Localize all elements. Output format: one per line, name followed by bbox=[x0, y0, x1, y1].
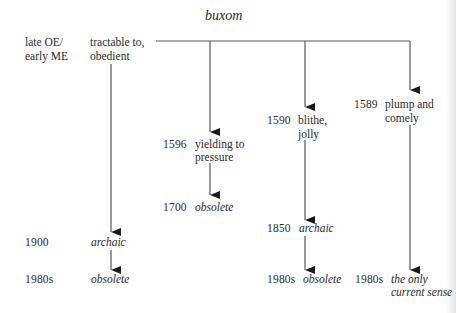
root-chain-1980s-label: obsolete bbox=[91, 273, 129, 286]
branch3-sense-line1: plump and bbox=[385, 98, 434, 111]
branch2-next-label: archaic bbox=[299, 222, 334, 235]
branch3-date: 1589 bbox=[354, 98, 378, 111]
diagram-title: buxom bbox=[205, 9, 242, 22]
branch2-sense-line1: blithe, bbox=[298, 114, 327, 127]
branch3-sense-line2: comely bbox=[385, 112, 419, 125]
root-date-line1: late OE/ bbox=[25, 36, 63, 49]
branch1-sense-line1: yielding to bbox=[195, 138, 245, 151]
branch3-final-label-line2: current sense bbox=[391, 286, 452, 299]
branch1-date: 1596 bbox=[163, 138, 187, 151]
branch1-next-date: 1700 bbox=[163, 201, 187, 214]
branch2-next-date: 1850 bbox=[267, 222, 291, 235]
root-chain-1900-label: archaic bbox=[91, 236, 126, 249]
branch3-final-date: 1980s bbox=[355, 273, 383, 286]
branch2-final-label: obsolete bbox=[303, 273, 341, 286]
root-sense-line1: tractable to, bbox=[90, 36, 144, 49]
branch1-next-label: obsolete bbox=[195, 201, 233, 214]
branch1-sense-line2: pressure bbox=[195, 151, 233, 164]
branch2-final-date: 1980s bbox=[267, 273, 295, 286]
root-chain-1980s-date: 1980s bbox=[25, 273, 53, 286]
branch2-sense-line2: jolly bbox=[298, 128, 319, 141]
root-date-line2: early ME bbox=[25, 50, 68, 63]
root-chain-1900-date: 1900 bbox=[25, 236, 49, 249]
branch2-date: 1590 bbox=[267, 114, 291, 127]
root-sense-line2: obedient bbox=[90, 50, 130, 63]
branch3-final-label-line1: the only bbox=[391, 273, 428, 286]
